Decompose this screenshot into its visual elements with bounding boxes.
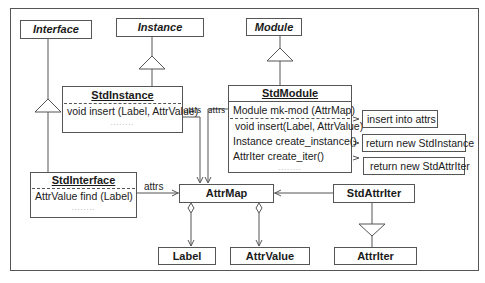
class-attr-iter[interactable]: AttrIter bbox=[334, 247, 417, 265]
class-name: StdInstance bbox=[63, 87, 182, 103]
class-name: Module bbox=[247, 19, 301, 35]
ellipsis: ........ bbox=[63, 119, 182, 127]
class-name: Label bbox=[159, 248, 215, 264]
operation: Instance create_instance() bbox=[229, 134, 351, 149]
class-std-module[interactable]: StdModule Module mk-mod (AttrMap) void i… bbox=[228, 85, 352, 173]
operation: AttrIter create_iter() bbox=[229, 149, 351, 164]
class-label[interactable]: Label bbox=[158, 247, 216, 265]
association-label-module-attrs: attrs bbox=[208, 104, 225, 115]
class-name: AttrValue bbox=[231, 248, 309, 264]
ellipsis: ........ bbox=[31, 204, 136, 212]
class-std-attr-iter[interactable]: StdAttrIter bbox=[333, 184, 415, 203]
class-instance[interactable]: Instance bbox=[116, 18, 204, 37]
class-name: StdModule bbox=[229, 86, 351, 101]
class-name: AttrMap bbox=[180, 185, 273, 202]
note-create-iter: return new StdAttrIter bbox=[363, 157, 465, 175]
note-insert: insert into attrs bbox=[362, 110, 438, 128]
class-std-instance[interactable]: StdInstance void insert (Label, AttrValu… bbox=[62, 86, 183, 133]
operation: void insert (Label, AttrValue) bbox=[63, 104, 182, 119]
class-attr-map[interactable]: AttrMap bbox=[179, 184, 274, 203]
class-name: AttrIter bbox=[335, 248, 416, 264]
association-label-interface-attrs: attrs bbox=[144, 181, 163, 192]
attribute: Module mk-mod (AttrMap) bbox=[229, 102, 351, 118]
class-name: StdInterface bbox=[31, 173, 136, 188]
class-attr-value[interactable]: AttrValue bbox=[230, 247, 310, 265]
class-name: Instance bbox=[117, 19, 203, 36]
class-name: Interface bbox=[21, 21, 91, 38]
association-label-instance-attrs: attrs bbox=[184, 104, 201, 115]
note-create-instance: return new StdInstance bbox=[362, 134, 466, 152]
class-std-interface[interactable]: StdInterface AttrValue find (Label) ....… bbox=[30, 172, 137, 218]
class-module[interactable]: Module bbox=[246, 18, 302, 36]
operation: AttrValue find (Label) bbox=[31, 189, 136, 204]
ellipsis: ........ bbox=[229, 164, 351, 172]
operation: void insert(Label, AttrValue) bbox=[229, 119, 351, 134]
class-interface[interactable]: Interface bbox=[20, 20, 92, 39]
class-name: StdAttrIter bbox=[334, 185, 414, 202]
